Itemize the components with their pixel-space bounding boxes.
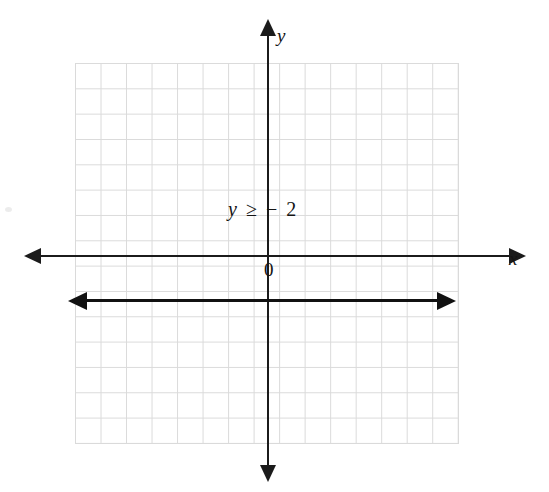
x-axis-line bbox=[33, 255, 517, 257]
y-axis-down-arrowhead-icon bbox=[260, 465, 276, 482]
inequality-relation-symbol: ≥ bbox=[246, 198, 259, 220]
graph-canvas: y x 0 y ≥ − 2 bbox=[0, 0, 549, 492]
boundary-line bbox=[84, 299, 444, 302]
inequality-value: − 2 bbox=[266, 198, 298, 220]
boundary-line-right-arrowhead-icon bbox=[437, 292, 456, 310]
x-axis-left-arrowhead-icon bbox=[24, 248, 41, 264]
y-axis-up-arrowhead-icon bbox=[260, 19, 276, 36]
origin-label: 0 bbox=[264, 260, 274, 279]
y-axis-label: y bbox=[277, 26, 285, 45]
inequality-variable: y bbox=[228, 198, 239, 220]
inequality-annotation: y ≥ − 2 bbox=[228, 199, 298, 219]
boundary-line-left-arrowhead-icon bbox=[68, 292, 87, 310]
x-axis-label: x bbox=[509, 249, 517, 268]
y-axis-line bbox=[267, 28, 269, 474]
scan-artifact-speck bbox=[5, 207, 12, 212]
